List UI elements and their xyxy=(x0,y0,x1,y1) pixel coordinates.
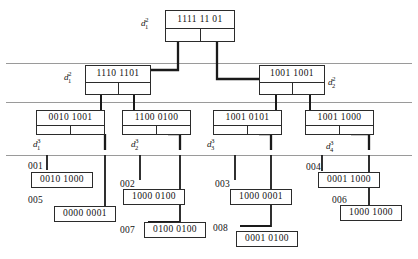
leaf-tag-008: 008 xyxy=(213,224,228,234)
leaf-box-003[interactable]: 1000 0001 xyxy=(230,189,292,205)
pointer-root-right xyxy=(217,42,259,79)
pointer-root-left xyxy=(151,42,178,70)
node-d1-2-pointers xyxy=(86,83,150,94)
node-d2-2-pointer-0[interactable] xyxy=(260,83,292,94)
node-d3-3-key: 1001 0101 xyxy=(214,111,281,126)
node-d4-3[interactable]: 1001 1000 xyxy=(305,110,374,135)
node-d2-3[interactable]: 1100 0100 xyxy=(122,110,191,135)
leaf-box-001[interactable]: 0010 1000 xyxy=(31,172,93,188)
node-d1-2-pointer-0[interactable] xyxy=(86,83,118,94)
node-d4-3-label: d43 xyxy=(326,142,337,151)
leaf-tag-003: 003 xyxy=(215,180,230,190)
node-d1-3-pointer-0[interactable] xyxy=(37,126,70,134)
node-d1-2[interactable]: 1110 1101 xyxy=(85,65,151,95)
node-root-pointers xyxy=(166,29,234,41)
leaf-tag-007: 007 xyxy=(120,226,135,236)
node-d3-3-label-sup: 3 xyxy=(211,137,214,144)
node-d1-3-pointers xyxy=(37,126,104,134)
leaf-tag-001: 001 xyxy=(28,162,43,172)
node-d4-3-pointer-1[interactable] xyxy=(339,126,373,134)
node-d4-3-label-sub: 4 xyxy=(330,146,333,153)
leaf-box-008[interactable]: 0001 0100 xyxy=(236,231,298,247)
node-root-label: d12 xyxy=(141,19,152,28)
node-d2-3-key: 1100 0100 xyxy=(123,111,190,126)
node-d2-2-key: 1001 1001 xyxy=(260,66,324,83)
node-d1-3-label-sup: 3 xyxy=(37,137,40,144)
node-d1-3[interactable]: 0010 1001 xyxy=(36,110,105,135)
leaf-box-005[interactable]: 0000 0001 xyxy=(54,206,116,222)
leaf-box-004[interactable]: 0001 1000 xyxy=(318,172,380,188)
node-d3-3-pointers xyxy=(214,126,281,134)
sibling-link-d43 xyxy=(351,134,369,150)
node-d4-3-pointer-0[interactable] xyxy=(306,126,339,134)
node-d2-2-pointer-1[interactable] xyxy=(292,83,325,94)
node-d1-2-pointer-1[interactable] xyxy=(118,83,151,94)
node-d1-2-label-sub: 1 xyxy=(68,77,71,84)
node-d2-3-pointers xyxy=(123,126,190,134)
leaf-box-002[interactable]: 1000 0100 xyxy=(123,189,185,205)
node-d1-2-key: 1110 1101 xyxy=(86,66,150,83)
node-d2-3-pointer-1[interactable] xyxy=(156,126,190,134)
node-root-label-sup: 2 xyxy=(145,16,148,23)
node-d2-3-pointer-0[interactable] xyxy=(123,126,156,134)
node-d2-2[interactable]: 1001 1001 xyxy=(259,65,325,95)
node-d2-2-label: d22 xyxy=(328,78,339,87)
node-d2-2-label-sup: 2 xyxy=(332,75,335,82)
sibling-link-d23 xyxy=(168,134,180,150)
node-d2-3-label-sub: 2 xyxy=(135,144,138,151)
leaf-tag-005: 005 xyxy=(28,196,43,206)
node-root-pointer-0[interactable] xyxy=(166,29,200,41)
node-d2-3-label-sup: 3 xyxy=(135,137,138,144)
node-d1-2-label: d12 xyxy=(64,73,75,82)
node-d3-3-pointer-0[interactable] xyxy=(214,126,247,134)
node-root-label-sub: 1 xyxy=(145,23,148,30)
node-d1-3-key: 0010 1001 xyxy=(37,111,104,126)
node-d1-3-label: d13 xyxy=(33,140,44,149)
node-root-d1-2[interactable]: 1111 11 01 xyxy=(165,10,235,42)
node-root-key: 1111 11 01 xyxy=(166,11,234,29)
node-d4-3-key: 1001 1000 xyxy=(306,111,373,126)
node-root-pointer-1[interactable] xyxy=(200,29,235,41)
leaf-box-006[interactable]: 1000 1000 xyxy=(340,205,402,221)
node-d3-3-label: d33 xyxy=(207,140,218,149)
sibling-link-d33 xyxy=(259,134,271,150)
node-d2-2-pointers xyxy=(260,83,324,94)
node-d2-3-label: d23 xyxy=(131,140,142,149)
node-d4-3-pointers xyxy=(306,126,373,134)
node-d3-3-label-sub: 3 xyxy=(211,144,214,151)
node-d3-3-pointer-1[interactable] xyxy=(247,126,281,134)
node-d1-2-label-sup: 2 xyxy=(68,70,71,77)
node-d2-2-label-sub: 2 xyxy=(332,82,335,89)
node-d3-3[interactable]: 1001 0101 xyxy=(213,110,282,135)
node-d1-3-pointer-1[interactable] xyxy=(70,126,104,134)
leaf-box-007[interactable]: 0100 0100 xyxy=(144,222,206,238)
node-d4-3-label-sup: 3 xyxy=(330,139,333,146)
node-d1-3-label-sub: 1 xyxy=(37,144,40,151)
tree-diagram-canvas: 1111 11 01 d12 1110 1101 d12 1001 1001 d… xyxy=(0,0,418,259)
